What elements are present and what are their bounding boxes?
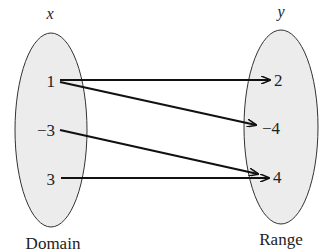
range-value-neg4: −4 [262, 119, 281, 138]
arrow-neg3-to-4 [60, 130, 258, 174]
domain-value-1: 1 [47, 72, 56, 91]
range-header: y [275, 3, 285, 21]
range-caption: Range [259, 230, 302, 249]
mapping-diagram: x y 1 −3 3 2 −4 4 Domain Range [0, 0, 325, 252]
domain-header: x [45, 5, 53, 22]
range-ellipse [244, 30, 318, 224]
diagram-canvas: x y 1 −3 3 2 −4 4 Domain Range [0, 0, 325, 252]
range-value-4: 4 [273, 168, 282, 187]
range-value-2: 2 [274, 71, 283, 90]
domain-caption: Domain [26, 234, 81, 252]
domain-value-3: 3 [47, 170, 56, 189]
domain-value-neg3: −3 [37, 121, 55, 140]
arrow-1-to-neg4 [60, 82, 256, 125]
